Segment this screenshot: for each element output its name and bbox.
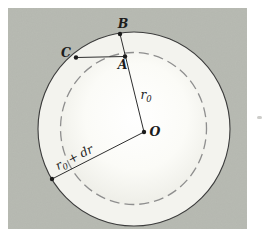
label-r0-subscript: 0 <box>146 94 152 104</box>
label-center-o: O <box>150 124 161 139</box>
inner-dashed-circle <box>61 53 207 205</box>
point-dot-outer-dr <box>50 177 54 181</box>
center-dot-o <box>142 130 146 134</box>
label-point-a: A <box>117 57 128 72</box>
scan-artifact-mark <box>257 116 262 119</box>
physics-figure: B C A O r0 r0+dr <box>0 0 271 243</box>
point-dot-b <box>118 32 122 36</box>
point-dot-c <box>74 55 78 59</box>
label-point-c: C <box>61 45 71 60</box>
label-point-b: B <box>117 16 129 31</box>
